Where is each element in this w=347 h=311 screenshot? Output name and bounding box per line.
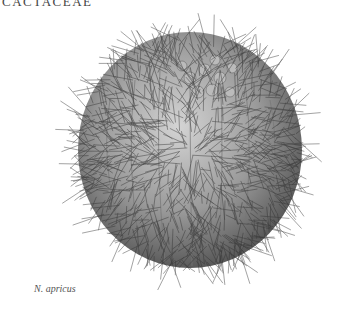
cactus-illustration bbox=[0, 0, 347, 311]
species-caption: N. apricus bbox=[34, 283, 76, 294]
